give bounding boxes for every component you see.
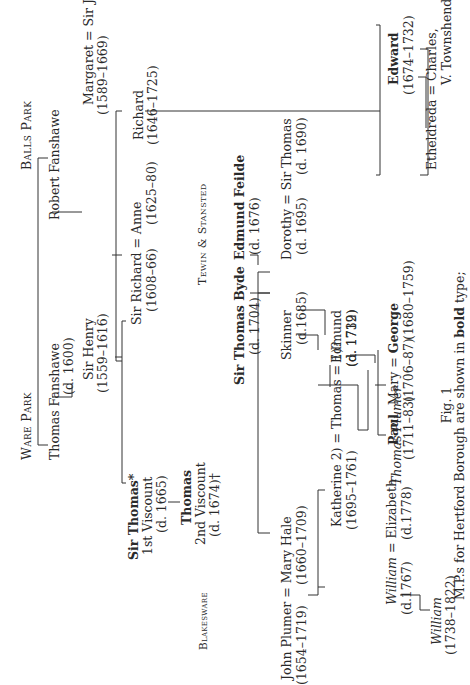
person-sir-thomas-feilde-dates: (d. 1690): [295, 117, 309, 175]
person-paul-dates: (1711–83): [402, 396, 416, 460]
person-edmund-feilde-dates: (d. 1676): [248, 197, 262, 255]
person-sir-richard-dates: (1608–66): [145, 248, 159, 312]
estate-label-blakesware: Blakesware: [196, 592, 210, 650]
figure-caption: M.P.s for Hertford Borough are shown in …: [453, 271, 467, 600]
person-sir-richard: Sir Richard = Anne: [130, 202, 144, 325]
marriage-sign: =: [384, 543, 399, 553]
person-elizabeth-dates: (d.1778): [400, 486, 414, 540]
person-robert-fanshawe: Robert Fanshawe: [48, 109, 62, 220]
person-sir-thomas-1st-viscount: Sir Thomas*: [127, 474, 141, 560]
person-charles-townshend: Charles,: [424, 28, 439, 81]
person-dorothy-dates: (d. 1695): [295, 197, 309, 255]
person-thomas-fanshawe: Thomas Fanshawe: [48, 343, 62, 460]
person-mary: Mary = George: [387, 303, 401, 405]
marriage-sign: =: [386, 357, 401, 367]
person-thomas-2nd-title: 2nd Viscount: [194, 462, 208, 545]
marriage-sign: =: [279, 587, 294, 597]
person-sir-john-harrison-dates: (1589–1669): [96, 35, 110, 115]
person-anne-dates: (1625–80): [145, 161, 159, 225]
marriage-sign: =: [424, 85, 439, 95]
person-mary-hale-dates: (1660–1709): [295, 505, 309, 585]
person-sir-thomas-dates: (d. 1665): [155, 475, 169, 533]
person-katherine: Katherine 2) = Thomas = 1)?: [330, 341, 344, 527]
genealogy-page: Ware Park Balls Park Tewin & Stansted Bl…: [0, 0, 470, 685]
person-edward-dates: (1674–1732): [402, 15, 416, 95]
person-john-plumer: John Plumer = Mary Hale: [280, 516, 294, 680]
person-john-plumer-dates: (1654–1719): [295, 605, 309, 685]
person-skinner-dates: (d.1685): [295, 291, 309, 345]
person-paul: Paul: [387, 414, 401, 445]
person-edmund-feilde: Edmund Feilde: [233, 155, 247, 260]
person-sir-john-harrison: Sir John Harrison: [81, 0, 96, 26]
person-dorothy: Dorothy = Sir Thomas: [280, 118, 294, 260]
marriage-sign: =: [329, 433, 344, 443]
person-sir-thomas-byde-dates: (d. 1704): [248, 297, 262, 355]
person-sir-thomas-feilde: Sir Thomas: [279, 118, 294, 190]
person-thomas-2nd-dates: (d. 1674)†: [208, 473, 222, 537]
person-edmund-jr: Edmund: [330, 310, 344, 363]
person-george-dates: (1680–1759): [402, 260, 416, 340]
person-william-sr: William = Elizabeth: [385, 479, 399, 605]
person-mary-dates: (1706–87): [402, 338, 416, 402]
person-william-sr-dates: (d.1767): [400, 561, 414, 615]
person-george: George: [386, 303, 401, 353]
person-richard-dates: (1646–1725): [146, 65, 160, 145]
person-anne: Anne: [129, 202, 144, 235]
person-william-jr: William: [430, 597, 444, 645]
person-etheldreda: Etheldreda = Charles,: [425, 28, 439, 170]
person-sir-henry: Sir Henry: [82, 318, 96, 380]
person-sir-thomas-title: 1st Viscount: [141, 477, 155, 555]
person-charles-townshend-title: V. Townshend: [440, 0, 454, 85]
person-thomas-plumer-sr: Thomas: [329, 379, 344, 429]
person-name: Thomas Fanshawe: [47, 343, 62, 460]
person-katherine-dates: (1695–1761): [345, 450, 359, 530]
marriage-sign: =: [279, 194, 294, 204]
estate-label-tewin-stansted: Tewin & Stansted: [196, 184, 210, 285]
person-edmund-jr-dates: (d. 1719): [345, 309, 359, 367]
person-thomas-fanshawe-dates: (d. 1600): [62, 337, 76, 395]
person-elizabeth: Elizabeth: [384, 479, 399, 539]
person-margaret: Margaret = Sir John Harrison: [82, 0, 96, 105]
person-skinner: Skinner: [280, 310, 294, 360]
marriage-sign: =: [81, 30, 96, 40]
person-sir-thomas-byde: Sir Thomas Byde: [233, 266, 247, 385]
estate-label-balls-park: Balls Park: [20, 101, 34, 170]
person-edward: Edward: [387, 33, 401, 85]
person-mary-hale: Mary Hale: [279, 516, 294, 583]
estate-label-ware-park: Ware Park: [20, 392, 34, 460]
person-sir-henry-dates: (1559–1616): [96, 313, 110, 393]
person-thomas-2nd-viscount: Thomas: [180, 470, 194, 525]
marriage-sign: =: [129, 238, 144, 248]
person-richard: Richard: [132, 90, 146, 140]
